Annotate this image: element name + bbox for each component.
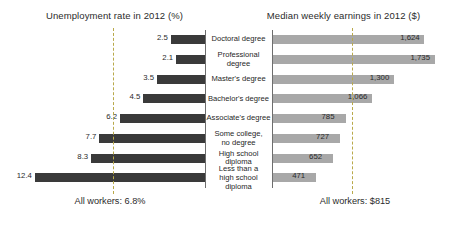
left-panel-title: Unemployment rate in 2012 (%) [0, 10, 229, 21]
unemployment-value-label: 8.3 [77, 152, 88, 161]
category-label: Less than ahigh school diploma [205, 168, 272, 188]
education-pays-chart: Unemployment rate in 2012 (%) Median wee… [0, 0, 458, 227]
unemployment-value-label: 7.7 [86, 132, 97, 141]
category-label-text: Associate's degree [205, 114, 272, 123]
unemployment-value-label: 4.5 [129, 92, 140, 101]
category-label-text: Professional degree [205, 51, 272, 69]
chart-row: 3.51,300Master's degree [0, 70, 458, 90]
earnings-average-reference-line [352, 28, 353, 194]
left-footer-note: All workers: 6.8% [10, 196, 210, 206]
earnings-bar [272, 154, 333, 163]
earnings-value-label: 785 [322, 112, 335, 121]
unemployment-bar [35, 173, 205, 182]
right-footer-note: All workers: $815 [255, 196, 455, 206]
right-axis-line [272, 30, 273, 188]
earnings-value-label: 471 [292, 171, 305, 180]
category-label-text: Bachelor's degree [205, 95, 272, 104]
category-label: Professional degree [205, 50, 272, 70]
category-label: Bachelor's degree [205, 89, 272, 109]
unemployment-average-reference-line [113, 28, 114, 194]
earnings-bar [272, 134, 340, 143]
unemployment-bar [176, 55, 205, 64]
unemployment-bar [143, 94, 205, 103]
category-label-text: Some college,no degree [205, 130, 272, 148]
unemployment-bar [171, 35, 205, 44]
earnings-value-label: 1,735 [411, 53, 431, 62]
earnings-value-label: 652 [309, 152, 322, 161]
earnings-value-label: 1,624 [400, 33, 420, 42]
unemployment-bar [157, 75, 205, 84]
unemployment-value-label: 3.5 [143, 73, 154, 82]
chart-row: 2.51,624Doctoral degree [0, 30, 458, 50]
unemployment-bar [91, 154, 205, 163]
unemployment-value-label: 6.2 [106, 112, 117, 121]
category-label-text: Master's degree [205, 75, 272, 84]
unemployment-value-label: 12.4 [17, 171, 32, 180]
category-label: Master's degree [205, 70, 272, 90]
chart-row: 4.51,066Bachelor's degree [0, 89, 458, 109]
unemployment-bar [99, 134, 205, 143]
earnings-value-label: 727 [316, 132, 329, 141]
category-label: Associate's degree [205, 109, 272, 129]
right-panel-title: Median weekly earnings in 2012 ($) [229, 10, 458, 21]
chart-row: 6.2785Associate's degree [0, 109, 458, 129]
earnings-value-label: 1,300 [370, 73, 390, 82]
chart-row: 12.4471Less than ahigh school diploma [0, 168, 458, 188]
unemployment-value-label: 2.5 [157, 33, 168, 42]
unemployment-value-label: 2.1 [162, 53, 173, 62]
left-axis-line [205, 30, 206, 188]
category-label-text: Doctoral degree [205, 35, 272, 44]
plot-area: 2.51,624Doctoral degree2.11,735Professio… [0, 30, 458, 188]
category-label: Some college,no degree [205, 129, 272, 149]
chart-row: 2.11,735Professional degree [0, 50, 458, 70]
earnings-value-label: 1,066 [348, 92, 368, 101]
unemployment-bar [120, 114, 205, 123]
category-label-text: Less than ahigh school diploma [205, 165, 272, 191]
chart-row: 7.7727Some college,no degree [0, 129, 458, 149]
category-label: Doctoral degree [205, 30, 272, 50]
